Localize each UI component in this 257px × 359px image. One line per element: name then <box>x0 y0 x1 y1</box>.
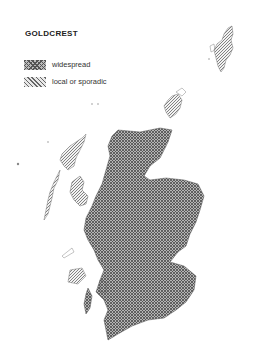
jura-islay <box>84 288 92 314</box>
distribution-map <box>0 0 257 359</box>
shetland-islands <box>210 26 233 72</box>
skye <box>70 176 88 206</box>
small-isle <box>62 248 74 258</box>
arran <box>100 280 106 292</box>
orkney-islands <box>164 88 186 118</box>
mull <box>68 268 86 284</box>
mainland-widespread <box>84 128 204 340</box>
